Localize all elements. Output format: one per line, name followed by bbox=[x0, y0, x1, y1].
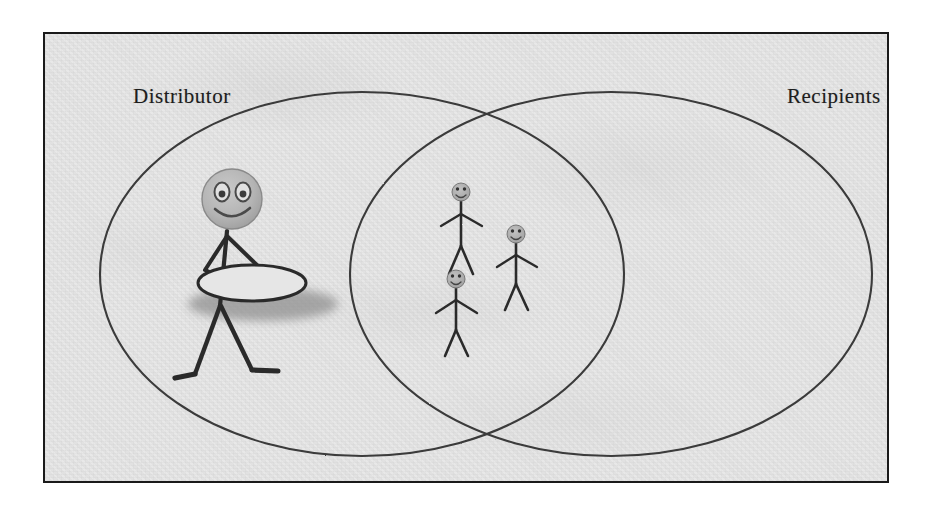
recipient2-head bbox=[507, 225, 525, 243]
recipient-stick-figure-2 bbox=[497, 225, 537, 310]
distributor-head bbox=[202, 169, 262, 229]
recipient2-left-leg bbox=[505, 284, 516, 310]
distributor-head-circle bbox=[202, 169, 262, 229]
recipient3-left-arm bbox=[436, 300, 456, 313]
recipient3-eye-left bbox=[451, 274, 454, 277]
recipient2-left-arm bbox=[497, 255, 516, 267]
recipient1-right-leg bbox=[461, 246, 473, 274]
recipient2-eye-right bbox=[518, 229, 521, 232]
recipient1-right-arm bbox=[461, 214, 482, 226]
recipient3-head bbox=[447, 270, 465, 288]
distributor-left-leg bbox=[195, 306, 220, 374]
recipient2-right-leg bbox=[516, 284, 528, 310]
recipient2-right-arm bbox=[516, 255, 537, 267]
distributor-pupil-right bbox=[240, 191, 247, 198]
recipient-stick-figure-1 bbox=[441, 183, 482, 274]
distributor-right-foot bbox=[252, 370, 278, 371]
recipient3-right-arm bbox=[456, 300, 477, 313]
label-distributor: Distributor bbox=[133, 84, 231, 109]
diagram-frame: Distributor Recipients bbox=[43, 32, 889, 483]
distributor-left-foot bbox=[175, 374, 195, 378]
ellipse-recipients bbox=[350, 92, 872, 456]
ellipse-distributor bbox=[100, 92, 624, 456]
recipient1-eye-left bbox=[456, 187, 459, 190]
recipient1-head bbox=[452, 183, 470, 201]
distributor-stick-figure bbox=[175, 169, 338, 378]
recipient2-eye-left bbox=[511, 229, 514, 232]
distributor-disc bbox=[198, 265, 306, 301]
distributor-pupil-left bbox=[219, 191, 226, 198]
recipient1-left-arm bbox=[441, 214, 461, 226]
venn-diagram-figure: Distributor Recipients bbox=[0, 0, 935, 508]
recipient3-right-leg bbox=[456, 330, 468, 356]
recipient-stick-figure-3 bbox=[436, 270, 477, 356]
recipient3-left-leg bbox=[445, 330, 456, 356]
recipient3-eye-right bbox=[458, 274, 461, 277]
label-recipients: Recipients bbox=[787, 84, 881, 109]
recipient1-eye-right bbox=[463, 187, 466, 190]
